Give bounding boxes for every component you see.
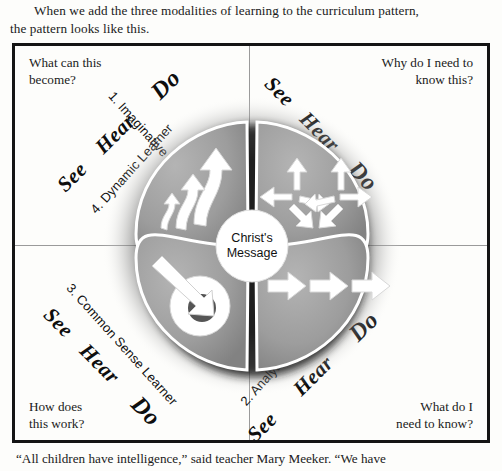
question-bottom-left: How does this work? bbox=[29, 398, 84, 432]
bottom-caption: “All children have intelligence,” said t… bbox=[0, 450, 502, 467]
learning-wheel-diagram: Christ's Message bbox=[100, 94, 404, 398]
intro-line-1: When we add the three modalities of lear… bbox=[0, 2, 502, 20]
modality-see-top-left: See bbox=[52, 157, 92, 197]
intro-paragraph: When we add the three modalities of lear… bbox=[0, 2, 502, 37]
intro-line-2: the pattern looks like this. bbox=[0, 20, 502, 38]
question-bottom-right: What do I need to know? bbox=[396, 398, 473, 432]
question-top-left: What can this become? bbox=[29, 54, 102, 88]
center-circle bbox=[216, 210, 288, 282]
question-top-right: Why do I need to know this? bbox=[381, 54, 473, 88]
modality-see-bottom-left: See bbox=[38, 303, 78, 343]
figure-frame: What can this become? Why do I need to k… bbox=[12, 43, 490, 443]
